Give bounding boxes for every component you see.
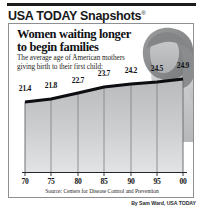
x-tick-label-6: 00 bbox=[179, 177, 186, 186]
x-tick-label-2: 80 bbox=[74, 177, 81, 186]
registered-trademark-icon: ® bbox=[141, 10, 145, 16]
source-note: Source: Centers for Disease Control and … bbox=[9, 188, 194, 194]
data-label-3: 23.7 bbox=[98, 69, 110, 78]
credit-line: By Sam Ward, USA TODAY bbox=[131, 200, 196, 206]
data-label-5: 24.5 bbox=[151, 64, 163, 73]
x-tick-label-3: 85 bbox=[100, 177, 107, 186]
x-tick-label-0: 70 bbox=[21, 177, 28, 186]
x-tick-label-5: 95 bbox=[153, 177, 160, 186]
page-title-line-2: to begin families bbox=[17, 41, 139, 54]
page-title: Women waiting longer to begin families bbox=[17, 28, 139, 53]
page-subtitle-line-1: The average age of American mothers bbox=[17, 54, 145, 63]
usa-today-snapshot: USA TODAY Snapshots® Women waiting longe… bbox=[0, 0, 202, 212]
data-label-2: 22.7 bbox=[72, 76, 84, 85]
x-tick-label-4: 90 bbox=[127, 177, 134, 186]
snapshot-panel: Women waiting longer to begin families T… bbox=[8, 23, 194, 198]
page-title-line-1: Women waiting longer bbox=[17, 28, 139, 41]
x-tick-label-1: 75 bbox=[47, 177, 54, 186]
chart: 21.4 21.8 22.7 23.7 24.2 24.5 24.9 70 75… bbox=[9, 76, 194, 198]
data-label-1: 21.8 bbox=[45, 81, 57, 90]
masthead-title: USA TODAY Snapshots® bbox=[8, 6, 198, 21]
data-label-6: 24.9 bbox=[177, 61, 189, 70]
data-label-0: 21.4 bbox=[19, 84, 31, 93]
data-label-4: 24.2 bbox=[125, 66, 137, 75]
masthead-brand: USA TODAY Snapshots bbox=[8, 9, 141, 23]
